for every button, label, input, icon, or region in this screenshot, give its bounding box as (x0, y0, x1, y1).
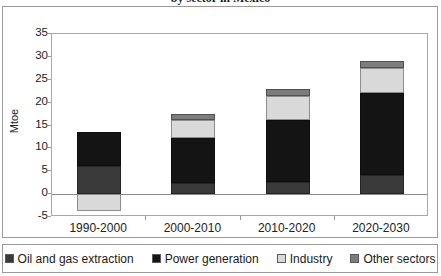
x-tick-mark (240, 216, 241, 220)
bar-group (360, 34, 404, 217)
bar-segment (171, 183, 215, 194)
plot-inner (52, 34, 427, 215)
bar-group (77, 34, 121, 217)
x-tick-label: 2020-2030 (326, 221, 436, 235)
bar-group (171, 34, 215, 217)
x-tick-mark (334, 216, 335, 220)
y-axis-tick-labels: -505101520253035 (21, 33, 48, 216)
x-axis-tick-labels: 1990-20002000-20102010-20202020-2030 (51, 221, 428, 241)
bar-segment (77, 194, 121, 211)
legend-item[interactable]: Power generation (152, 253, 259, 265)
y-tick-mark (47, 102, 51, 103)
bar-segment (171, 120, 215, 139)
bar-segment (77, 132, 121, 166)
y-tick-mark (47, 56, 51, 57)
legend-frame: Oil and gas extractionPower generationIn… (2, 244, 438, 273)
legend-item[interactable]: Industry (277, 253, 333, 265)
y-tick-mark (47, 216, 51, 217)
legend-swatch-icon (5, 254, 14, 263)
legend-swatch-icon (277, 254, 286, 263)
y-tick-mark (47, 147, 51, 148)
chart-screenshot: by sector in Mexico Mtoe -50510152025303… (0, 0, 441, 276)
y-tick-mark (47, 125, 51, 126)
bar-segment (266, 89, 310, 96)
y-tick-mark (47, 193, 51, 194)
bar-segment (360, 61, 404, 68)
legend-item[interactable]: Oil and gas extraction (5, 253, 134, 265)
y-tick-mark (47, 33, 51, 34)
plot-area (51, 33, 428, 216)
bar-segment (360, 68, 404, 93)
legend-swatch-icon (350, 254, 359, 263)
legend-label: Oil and gas extraction (18, 253, 134, 265)
legend-item[interactable]: Other sectors (350, 253, 435, 265)
bar-segment (360, 93, 404, 175)
bar-group (266, 34, 310, 217)
bar-segment (360, 175, 404, 194)
chart-frame: Mtoe -505101520253035 1990-20002000-2010… (2, 6, 438, 238)
legend-label: Industry (290, 253, 333, 265)
y-tick-mark (47, 79, 51, 80)
bar-segment (266, 182, 310, 194)
legend-swatch-icon (152, 254, 161, 263)
bar-segment (171, 114, 215, 119)
x-tick-mark (145, 216, 146, 220)
bar-segment (77, 166, 121, 194)
legend: Oil and gas extractionPower generationIn… (3, 245, 437, 272)
bar-segment (266, 120, 310, 182)
y-axis-title: Mtoe (8, 96, 20, 146)
bar-segment (266, 96, 310, 120)
y-tick-mark (47, 170, 51, 171)
legend-label: Other sectors (363, 253, 435, 265)
bar-segment (171, 138, 215, 182)
legend-label: Power generation (165, 253, 259, 265)
